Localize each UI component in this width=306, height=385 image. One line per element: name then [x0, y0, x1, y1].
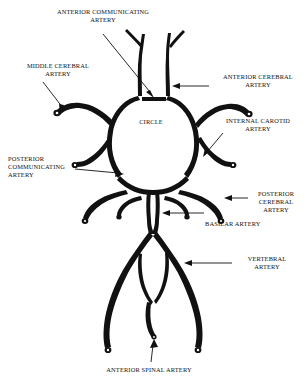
anterior-cerebral-artery-right	[166, 33, 171, 96]
label-internal-carotid-artery: INTERNAL CAROTID ARTERY	[211, 117, 305, 133]
label-anterior-spinal-artery: ANTERIOR SPINAL ARTERY	[83, 366, 215, 374]
arrowhead-posterior-cerebral	[224, 195, 232, 201]
anterior-spinal-artery-stem	[146, 302, 157, 338]
leader-internal-carotid	[207, 133, 223, 152]
superior-cerebellar-artery-right-tip	[184, 215, 189, 220]
posterior-cerebral-artery-right	[178, 190, 223, 220]
arrowhead-anterior-spinal	[150, 339, 158, 348]
anterior-communicating-artery	[142, 97, 166, 101]
label-posterior-communicating-artery: POSTERIOR COMMUNICATING ARTERY	[8, 155, 94, 180]
diagram-page: ANTERIOR COMMUNICATING ARTERY MIDDLE CER…	[0, 0, 306, 385]
anterior-spinal-branch-right	[154, 252, 169, 304]
label-vertebral-artery: VERTEBRAL ARTERY	[234, 255, 300, 271]
label-anterior-communicating-artery: ANTERIOR COMMUNICATING ARTERY	[38, 8, 168, 24]
basilar-artery	[146, 192, 160, 234]
anterior-spinal-artery-lumen	[153, 336, 155, 338]
posterior-cerebral-artery-left-lumen	[84, 220, 86, 222]
circle-of-willis-ring-right	[166, 96, 199, 178]
vertebral-artery-right-lumen	[197, 349, 199, 351]
internal-carotid-artery-right-lumen	[232, 164, 234, 166]
middle-cerebral-artery-left-lumen	[56, 112, 59, 115]
middle-cerebral-artery-right-lumen	[248, 113, 251, 116]
vertebral-artery-left-lumen	[107, 349, 109, 351]
middle-cerebral-artery-left	[56, 103, 114, 126]
label-circle: CIRCLE	[125, 118, 177, 126]
arrowhead-basilar	[162, 210, 170, 216]
arrowhead-anterior-cerebral	[172, 83, 180, 89]
superior-cerebellar-artery-left	[117, 196, 142, 216]
label-basilar-artery: BASILAR ARTERY	[205, 220, 301, 228]
anterior-spinal-branch-left	[138, 253, 153, 305]
label-posterior-cerebral-artery: POSTERIOR CEREBRAL ARTERY	[249, 190, 303, 215]
anterior-cerebral-branch-right	[169, 30, 185, 48]
posterior-cerebral-artery-left	[83, 190, 128, 220]
label-anterior-cerebral-artery: ANTERIOR CEREBRAL ARTERY	[211, 73, 305, 89]
leader-middle-cerebral	[43, 82, 63, 108]
anterior-cerebral-branch-left	[125, 29, 143, 48]
label-middle-cerebral-artery: MIDDLE CEREBRAL ARTERY	[8, 62, 108, 78]
arrowhead-vertebral	[184, 260, 192, 266]
circle-of-willis-ring-base	[117, 176, 189, 195]
internal-carotid-artery-right	[197, 137, 231, 167]
superior-cerebellar-artery-left-tip	[116, 215, 121, 220]
arrowhead-anterior-communicating	[146, 90, 154, 98]
circle-of-willis-ring-left	[107, 96, 140, 178]
